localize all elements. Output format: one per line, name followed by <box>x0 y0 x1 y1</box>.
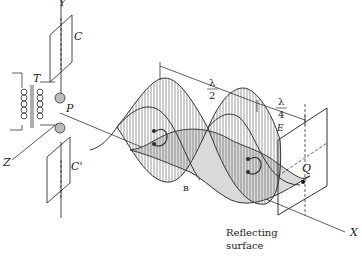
standing-wave-diagram: Y X Z C C' T P Q E B λ 2 λ 4 Reflecting … <box>0 0 362 258</box>
point-q-label: Q <box>302 162 311 175</box>
point-q <box>301 180 305 184</box>
b-field-label: B <box>183 184 189 193</box>
y-axis-label: Y <box>59 0 67 8</box>
transformer-label: T <box>33 72 42 85</box>
half-lambda-numerator: λ <box>209 77 216 88</box>
half-lambda-denominator: 2 <box>209 90 215 101</box>
plate-c-prime-label: C' <box>71 160 82 173</box>
reflecting-surface-label-1: Reflecting <box>226 227 278 238</box>
x-axis-label: X <box>349 226 359 239</box>
spark-sphere-top <box>55 93 65 103</box>
e-field-label: E <box>276 123 284 133</box>
plate-c-prime <box>47 137 70 203</box>
quarter-lambda-denominator: 4 <box>278 109 284 120</box>
z-axis-label: Z <box>2 156 11 169</box>
plate-c-label: C <box>74 30 83 43</box>
z-axis <box>12 123 58 160</box>
quarter-lambda-numerator: λ <box>278 96 285 107</box>
reflecting-surface-label-2: surface <box>226 240 264 251</box>
spark-gap-label: P <box>65 102 74 115</box>
